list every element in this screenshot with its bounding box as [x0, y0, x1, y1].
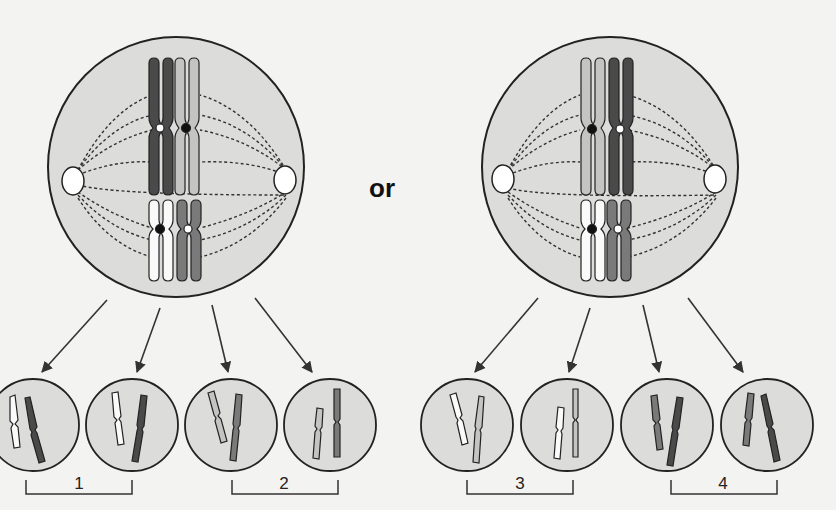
daughter-cell: [421, 379, 513, 471]
daughter-cell: [0, 379, 79, 471]
group-label-4: 4: [718, 474, 727, 493]
daughter-cell: [521, 379, 613, 471]
group-label-2: 2: [279, 474, 288, 493]
or-label: or: [369, 173, 395, 203]
daughter-cell: [185, 379, 277, 471]
meiosis-diagram: or: [0, 0, 836, 510]
division-arrows: [42, 298, 743, 372]
daughter-cell: [721, 379, 813, 471]
centriole-left: [62, 167, 84, 195]
group-brackets: [26, 480, 777, 494]
group-label-1: 1: [74, 474, 83, 493]
parent-cell-left: [48, 37, 304, 297]
daughter-cell: [284, 379, 376, 471]
centriole-right: [274, 166, 296, 194]
daughter-cell: [621, 379, 713, 471]
group-label-3: 3: [515, 474, 524, 493]
daughter-cell: [86, 379, 178, 471]
parent-cell-right: [482, 37, 738, 297]
centriole-right: [704, 165, 726, 193]
centriole-left: [492, 165, 514, 193]
